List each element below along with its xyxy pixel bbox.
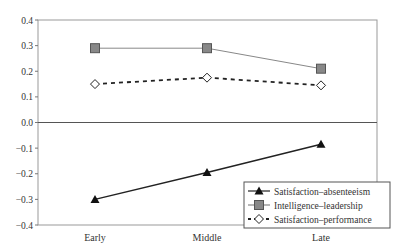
square-marker: [91, 44, 100, 53]
diamond-marker: [203, 73, 212, 82]
legend-label: Satisfaction–performance: [274, 215, 372, 225]
line-chart: 0.40.30.20.10.0−0.1−0.2−0.3−0.4 EarlyMid…: [0, 0, 393, 248]
square-marker: [317, 64, 326, 73]
series-2: [91, 73, 326, 90]
y-tick-label: −0.1: [16, 144, 33, 154]
y-tick-label: −0.2: [16, 169, 33, 179]
y-tick-label: 0.4: [21, 16, 33, 26]
x-axis: EarlyMiddleLate: [84, 232, 330, 243]
x-category-label: Late: [312, 232, 330, 243]
series-1: [91, 44, 326, 74]
series-layer: [91, 44, 326, 203]
legend-label: Intelligence–leadership: [274, 201, 363, 211]
x-category-label: Early: [84, 232, 106, 243]
y-axis: 0.40.30.20.10.0−0.1−0.2−0.3−0.4: [16, 16, 38, 231]
x-category-label: Middle: [193, 232, 222, 243]
y-tick-label: 0.1: [21, 92, 33, 102]
legend-label: Satisfaction–absenteeism: [274, 187, 371, 197]
y-tick-label: 0.0: [21, 118, 33, 128]
legend: Satisfaction–absenteeismIntelligence–lea…: [244, 182, 390, 228]
y-tick-label: 0.2: [21, 67, 33, 77]
y-tick-label: −0.3: [16, 195, 33, 205]
square-marker: [255, 201, 264, 210]
y-tick-label: 0.3: [21, 41, 33, 51]
diamond-marker: [317, 81, 326, 90]
triangle-marker: [317, 140, 326, 148]
diamond-marker: [91, 80, 100, 89]
square-marker: [203, 44, 212, 53]
y-tick-label: −0.4: [16, 221, 33, 231]
